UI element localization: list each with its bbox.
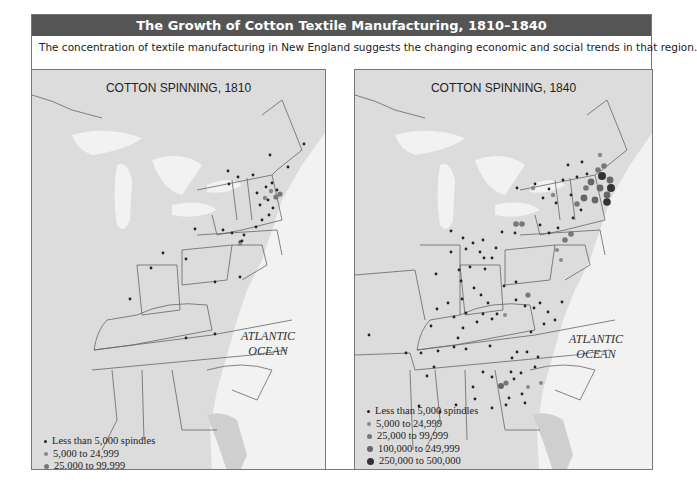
ocean-label: ATLANTIC OCEAN [228, 329, 308, 359]
map-1840: COTTON SPINNING, 1840 ATLANTIC OCEAN Les… [354, 69, 653, 470]
ocean-label-line2: OCEAN [551, 347, 641, 362]
legend-label: 5,000 to 24,999 [376, 418, 442, 431]
medium-dot-icon [367, 422, 371, 426]
legend-label: 100,000 to 249,999 [378, 443, 460, 456]
legend-label: Less than 5,000 spindles [375, 405, 478, 418]
legend-label: 25,000 to 99,999 [377, 430, 448, 443]
legend-label: Less than 5,000 spindles [52, 435, 155, 448]
xxlarge-dot-icon [367, 458, 374, 465]
map-title: COTTON SPINNING, 1810 [32, 81, 325, 95]
legend-item: 250,000 to 500,000 [367, 455, 478, 468]
medium-dot-icon [44, 452, 48, 456]
figure-caption: The concentration of textile manufacturi… [39, 40, 697, 54]
legend-item: Less than 5,000 spindles [367, 405, 478, 418]
legend: Less than 5,000 spindles 5,000 to 24,999… [44, 435, 155, 470]
map-title: COTTON SPINNING, 1840 [355, 81, 652, 95]
small-dot-icon [367, 410, 370, 413]
map-1810: COTTON SPINNING, 1810 ATLANTIC OCEAN Les… [31, 69, 326, 470]
legend: Less than 5,000 spindles 5,000 to 24,999… [367, 405, 478, 468]
ocean-label-line2: OCEAN [228, 344, 308, 359]
legend-item: Less than 5,000 spindles [44, 435, 155, 448]
legend-item: 100,000 to 249,999 [367, 443, 478, 456]
large-dot-icon [367, 434, 372, 439]
ocean-label: ATLANTIC OCEAN [551, 332, 641, 362]
legend-item: 5,000 to 24,999 [367, 418, 478, 431]
legend-label: 5,000 to 24,999 [53, 448, 119, 461]
ocean-label-line1: ATLANTIC [228, 329, 308, 344]
map-1810-graphic [32, 70, 326, 470]
legend-item: 25,000 to 99,999 [44, 460, 155, 470]
legend-item: 5,000 to 24,999 [44, 448, 155, 461]
ocean-label-line1: ATLANTIC [551, 332, 641, 347]
large-dot-icon [44, 464, 49, 469]
xlarge-dot-icon [367, 446, 373, 452]
legend-label: 250,000 to 500,000 [379, 455, 461, 468]
figure-frame: The Growth of Cotton Textile Manufacturi… [31, 14, 652, 470]
legend-item: 25,000 to 99,999 [367, 430, 478, 443]
figure-title: The Growth of Cotton Textile Manufacturi… [32, 15, 651, 36]
small-dot-icon [44, 440, 47, 443]
legend-label: 25,000 to 99,999 [54, 460, 125, 470]
